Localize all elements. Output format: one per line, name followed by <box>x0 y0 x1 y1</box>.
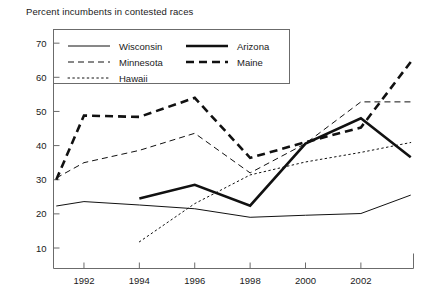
legend-label-minnesota: Minnesota <box>119 57 164 68</box>
x-tick-label: 1998 <box>240 275 261 286</box>
series-line-hawaii <box>139 143 410 242</box>
y-tick-label: 40 <box>36 140 47 151</box>
y-tick-label: 30 <box>36 174 47 185</box>
x-tick-label: 2002 <box>350 275 371 286</box>
legend-label-maine: Maine <box>237 57 263 68</box>
x-tick-label: 1994 <box>129 275 150 286</box>
y-tick-label: 20 <box>36 208 47 219</box>
chart-legend: WisconsinArizonaMinnesotaMaineHawaii <box>54 30 290 84</box>
x-axis-ticks: 199219941996199820002002 <box>73 263 371 286</box>
y-tick-label: 60 <box>36 72 47 83</box>
x-tick-label: 2000 <box>295 275 316 286</box>
y-tick-label: 70 <box>36 38 47 49</box>
data-series-group <box>56 62 410 242</box>
line-chart-plot: 10203040506070 199219941996199820002002 … <box>0 0 447 298</box>
legend-label-hawaii: Hawaii <box>119 73 148 84</box>
legend-label-wisconsin: Wisconsin <box>119 41 162 52</box>
legend-entries: WisconsinArizonaMinnesotaMaineHawaii <box>68 41 270 84</box>
series-line-arizona <box>139 118 410 205</box>
chart-container: Percent incumbents in contested races 10… <box>0 0 447 298</box>
y-axis-ticks: 10203040506070 <box>36 38 60 254</box>
x-tick-label: 1996 <box>184 275 205 286</box>
y-tick-label: 10 <box>36 243 47 254</box>
chart-axes <box>54 30 414 269</box>
x-tick-label: 1992 <box>73 275 94 286</box>
y-tick-label: 50 <box>36 106 47 117</box>
legend-label-arizona: Arizona <box>237 41 270 52</box>
